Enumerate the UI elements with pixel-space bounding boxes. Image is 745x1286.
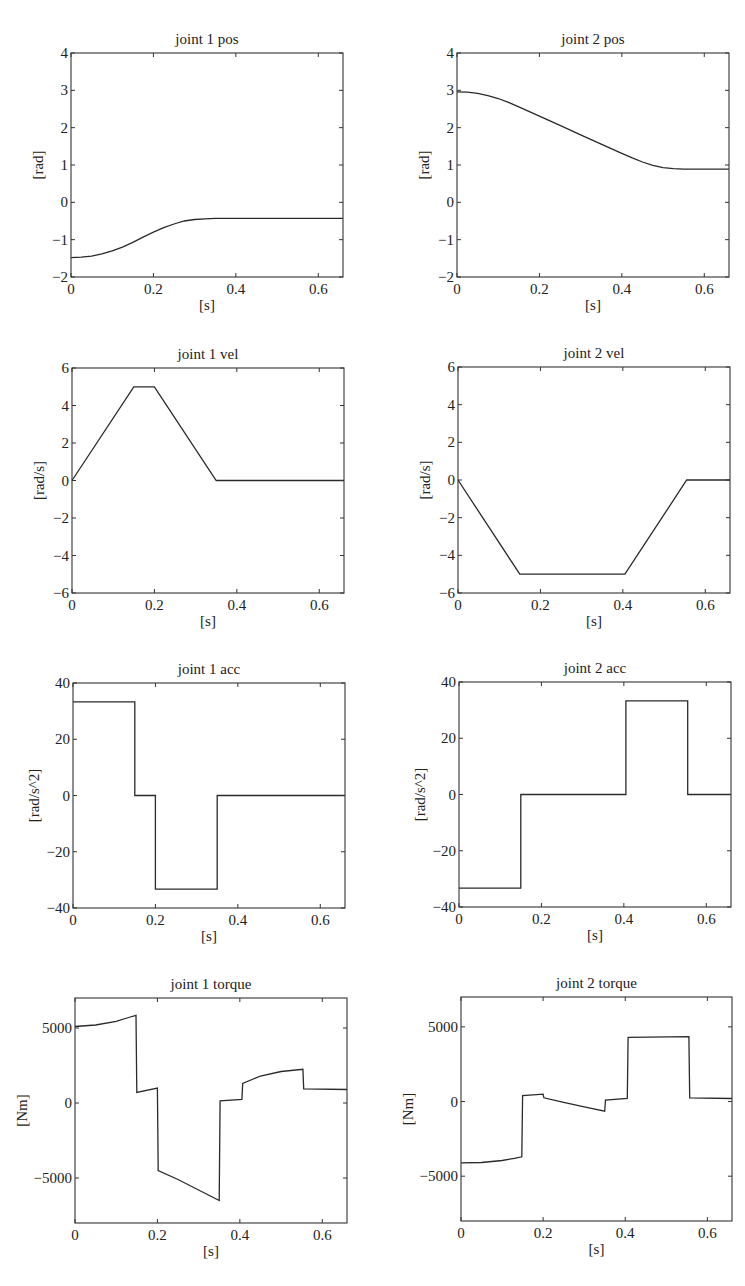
y-tick-label: 20 bbox=[55, 731, 70, 747]
y-axis-label: [rad] bbox=[30, 150, 46, 179]
subplot-title: joint 1 acc bbox=[177, 661, 241, 677]
x-tick-label: 0 bbox=[455, 911, 463, 927]
x-tick-label: 0.6 bbox=[309, 281, 328, 297]
y-axis-label: [rad] bbox=[416, 150, 432, 179]
x-tick-label: 0.4 bbox=[227, 597, 246, 613]
y-tick-label: 6 bbox=[448, 359, 456, 375]
y-axis-label: [Nm] bbox=[14, 1094, 30, 1127]
subplot-joint1-torque: joint 1 torque00.20.40.6−500005000[s][Nm… bbox=[14, 976, 347, 1259]
y-tick-label: 0 bbox=[449, 787, 457, 803]
y-axis-label: [rad/s^2] bbox=[412, 768, 428, 822]
x-tick-label: 0.4 bbox=[230, 1227, 249, 1243]
y-tick-label: −2 bbox=[438, 269, 454, 285]
y-tick-label: −40 bbox=[47, 900, 70, 916]
x-tick-label: 0.6 bbox=[696, 597, 715, 613]
subplot-title: joint 1 pos bbox=[174, 31, 239, 47]
y-tick-label: 5000 bbox=[428, 1019, 458, 1035]
x-axis-label: [s] bbox=[586, 613, 602, 629]
y-tick-label: 4 bbox=[62, 398, 70, 414]
y-axis-label: [rad/s^2] bbox=[26, 769, 42, 823]
y-tick-label: 2 bbox=[447, 120, 455, 136]
subplot-joint1-pos: joint 1 pos00.20.40.6−2−101234[s][rad] bbox=[30, 31, 343, 313]
x-tick-label: 0.4 bbox=[613, 597, 632, 613]
subplot-joint2-pos: joint 2 pos00.20.40.6−2−101234[s][rad] bbox=[416, 31, 729, 313]
y-tick-label: 0 bbox=[63, 788, 71, 804]
x-tick-label: 0.4 bbox=[226, 281, 245, 297]
y-tick-label: −2 bbox=[439, 510, 455, 526]
y-tick-label: 4 bbox=[61, 45, 69, 61]
x-tick-label: 0.2 bbox=[532, 911, 551, 927]
axes-box bbox=[75, 998, 347, 1223]
x-tick-label: 0.4 bbox=[228, 912, 247, 928]
x-axis-label: [s] bbox=[585, 297, 601, 313]
data-line bbox=[459, 701, 731, 888]
x-tick-label: 0 bbox=[67, 281, 75, 297]
x-tick-label: 0.6 bbox=[311, 912, 330, 928]
figure: joint 1 pos00.20.40.6−2−101234[s][rad]jo… bbox=[0, 0, 745, 1286]
y-tick-label: −5000 bbox=[34, 1170, 72, 1186]
axes-box bbox=[457, 53, 729, 277]
x-axis-label: [s] bbox=[199, 297, 215, 313]
x-tick-label: 0.2 bbox=[144, 281, 163, 297]
subplot-joint2-vel: joint 2 vel00.20.40.6−6−4−20246[s][rad/s… bbox=[417, 345, 730, 629]
x-tick-label: 0.2 bbox=[148, 1227, 167, 1243]
y-tick-label: 3 bbox=[447, 82, 455, 98]
data-line bbox=[458, 480, 730, 574]
y-tick-label: −40 bbox=[433, 899, 456, 915]
x-tick-label: 0.6 bbox=[698, 1225, 717, 1241]
subplot-joint1-vel: joint 1 vel00.20.40.6−6−4−20246[s][rad/s… bbox=[31, 346, 344, 629]
y-axis-label: [Nm] bbox=[400, 1093, 416, 1126]
subplot-title: joint 2 vel bbox=[563, 345, 625, 361]
y-tick-label: 4 bbox=[448, 397, 456, 413]
y-tick-label: 2 bbox=[61, 120, 69, 136]
data-line bbox=[457, 92, 729, 169]
subplot-joint2-torque: joint 2 torque00.20.40.6−500005000[s][Nm… bbox=[400, 975, 732, 1257]
y-tick-label: 4 bbox=[447, 45, 455, 61]
figure-canvas: joint 1 pos00.20.40.6−2−101234[s][rad]jo… bbox=[0, 0, 745, 1286]
x-tick-label: 0 bbox=[454, 597, 462, 613]
y-tick-label: 1 bbox=[447, 157, 455, 173]
axes-box bbox=[71, 53, 343, 277]
y-tick-label: 20 bbox=[441, 730, 456, 746]
y-tick-label: 0 bbox=[447, 194, 455, 210]
data-line bbox=[461, 1037, 732, 1163]
x-tick-label: 0.6 bbox=[313, 1227, 332, 1243]
y-tick-label: −1 bbox=[52, 232, 68, 248]
x-tick-label: 0 bbox=[68, 597, 76, 613]
y-tick-label: −6 bbox=[439, 585, 455, 601]
y-tick-label: 0 bbox=[61, 194, 69, 210]
y-tick-label: 0 bbox=[65, 1095, 73, 1111]
data-line bbox=[72, 387, 344, 481]
subplot-title: joint 1 vel bbox=[177, 346, 239, 362]
x-tick-label: 0.2 bbox=[146, 912, 165, 928]
y-tick-label: −4 bbox=[439, 547, 455, 563]
x-tick-label: 0 bbox=[457, 1225, 465, 1241]
y-tick-label: 3 bbox=[61, 82, 69, 98]
subplot-title: joint 1 torque bbox=[170, 976, 252, 992]
subplot-joint2-acc: joint 2 acc00.20.40.6−40−2002040[s][rad/… bbox=[412, 660, 731, 943]
y-tick-label: −1 bbox=[438, 232, 454, 248]
y-tick-label: 1 bbox=[61, 157, 69, 173]
y-tick-label: −4 bbox=[53, 548, 69, 564]
y-tick-label: 2 bbox=[448, 434, 456, 450]
y-tick-label: 5000 bbox=[42, 1020, 72, 1036]
x-tick-label: 0 bbox=[69, 912, 77, 928]
y-tick-label: −6 bbox=[53, 585, 69, 601]
x-tick-label: 0.4 bbox=[614, 911, 633, 927]
y-tick-label: −5000 bbox=[420, 1168, 458, 1184]
y-tick-label: 40 bbox=[55, 675, 70, 691]
x-tick-label: 0.4 bbox=[616, 1225, 635, 1241]
x-tick-label: 0 bbox=[71, 1227, 79, 1243]
y-tick-label: 2 bbox=[62, 435, 70, 451]
y-tick-label: −20 bbox=[433, 843, 456, 859]
data-line bbox=[73, 702, 345, 889]
y-axis-label: [rad/s] bbox=[417, 460, 433, 499]
y-tick-label: −2 bbox=[52, 269, 68, 285]
x-axis-label: [s] bbox=[587, 927, 603, 943]
subplot-title: joint 2 torque bbox=[555, 975, 637, 991]
x-axis-label: [s] bbox=[589, 1241, 605, 1257]
y-tick-label: 0 bbox=[451, 1094, 459, 1110]
x-tick-label: 0.6 bbox=[310, 597, 329, 613]
y-tick-label: 0 bbox=[62, 473, 70, 489]
x-axis-label: [s] bbox=[201, 928, 217, 944]
